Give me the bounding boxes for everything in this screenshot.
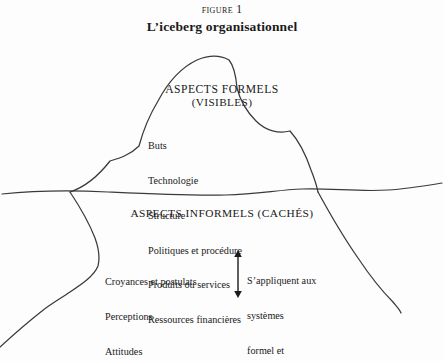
annotation-line: systèmes <box>247 310 316 322</box>
annotation-line: formel et <box>247 345 316 357</box>
figure-container: Figure 1 L’iceberg organisationnel ASPEC… <box>0 0 444 361</box>
informal-aspects-list: Croyances et postulats Perceptions Attit… <box>105 253 233 361</box>
informal-aspects-heading: ASPECTS INFORMELS (CACHÉS) <box>0 207 444 220</box>
figure-title: L’iceberg organisationnel <box>0 19 444 35</box>
double-headed-vertical-arrow-icon <box>228 249 248 299</box>
list-item: Croyances et postulats <box>105 276 233 288</box>
list-item: Buts <box>148 140 242 152</box>
formal-aspects-subheading: (VISIBLES) <box>0 96 444 109</box>
annotation-text: S’appliquent aux systèmes formel et info… <box>247 252 316 361</box>
annotation-line: S’appliquent aux <box>247 275 316 287</box>
list-item: Perceptions <box>105 311 233 323</box>
list-item: Technologie <box>148 175 242 187</box>
list-item: Attitudes <box>105 346 233 358</box>
figure-label: Figure 1 <box>0 3 444 16</box>
formal-aspects-heading: ASPECTS FORMELS <box>0 83 444 96</box>
